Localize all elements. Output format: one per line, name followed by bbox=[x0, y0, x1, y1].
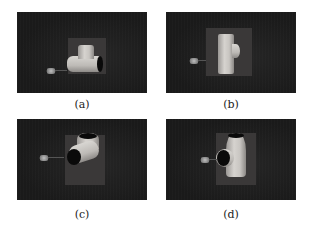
figure-panel-b bbox=[166, 12, 296, 93]
robot-gripper bbox=[199, 157, 211, 163]
gripper-arm bbox=[209, 159, 217, 160]
t-pipe-branch bbox=[232, 44, 240, 58]
caption-b: (b) bbox=[166, 98, 296, 111]
pipe-opening bbox=[217, 150, 230, 166]
gripper-arm bbox=[48, 157, 64, 158]
t-pipe-branch bbox=[78, 45, 94, 59]
caption-d: (d) bbox=[166, 208, 296, 221]
pipe-opening bbox=[97, 56, 103, 72]
figure-panel-c bbox=[17, 119, 147, 200]
robot-gripper bbox=[188, 58, 200, 64]
branch-opening bbox=[79, 133, 97, 139]
figure-panel-a bbox=[17, 12, 147, 93]
top-opening bbox=[228, 133, 244, 138]
figure-panel-d bbox=[166, 119, 296, 200]
robot-gripper bbox=[38, 155, 50, 161]
caption-c: (c) bbox=[17, 208, 147, 221]
robot-gripper bbox=[45, 68, 57, 74]
gripper-arm bbox=[198, 60, 206, 61]
caption-a: (a) bbox=[17, 98, 147, 111]
pipe-opening bbox=[67, 149, 81, 165]
gripper-arm bbox=[55, 70, 67, 71]
